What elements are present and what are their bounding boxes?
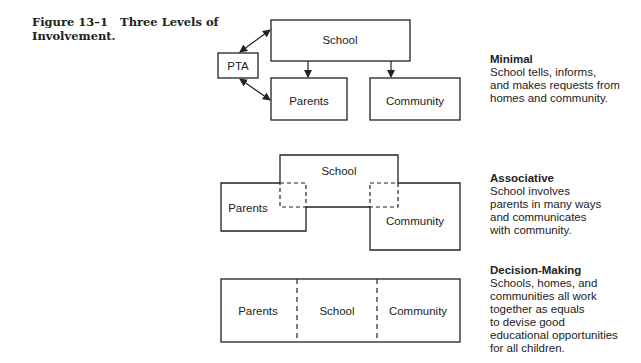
arrow-pta-school bbox=[240, 30, 270, 52]
school-community-overlap bbox=[370, 183, 398, 207]
parents-label: Parents bbox=[238, 305, 278, 317]
pta-label: PTA bbox=[227, 60, 249, 72]
parents-label: Parents bbox=[289, 95, 329, 107]
parents-school-overlap bbox=[280, 183, 306, 207]
arrow-pta-parents bbox=[240, 79, 270, 100]
minimal-diagram: School PTA Parents Community bbox=[218, 20, 460, 120]
associative-description: Associative School involves parents in m… bbox=[490, 172, 640, 237]
level-title: Associative bbox=[490, 172, 640, 185]
decision-making-diagram: Parents School Community bbox=[221, 279, 460, 342]
level-title: Minimal bbox=[490, 53, 640, 66]
school-label: School bbox=[319, 305, 354, 317]
decision-making-description: Decision-Making Schools, homes, and comm… bbox=[490, 264, 640, 355]
associative-diagram: School Parents Community bbox=[221, 155, 460, 250]
community-label: Community bbox=[386, 215, 444, 227]
school-label: School bbox=[322, 34, 357, 46]
community-label: Community bbox=[389, 305, 447, 317]
parents-label: Parents bbox=[228, 202, 268, 214]
community-label: Community bbox=[386, 95, 444, 107]
minimal-description: Minimal School tells, informs, and makes… bbox=[490, 53, 640, 105]
level-title: Decision-Making bbox=[490, 264, 640, 277]
school-label: School bbox=[321, 165, 356, 177]
